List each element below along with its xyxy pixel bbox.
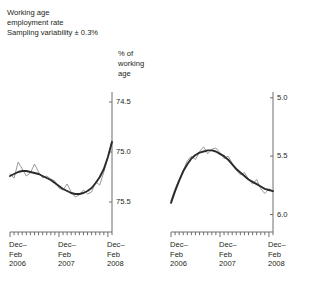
y-tick-label: 6.0 (277, 211, 288, 219)
y-tick-label: 75.5 (116, 198, 131, 206)
axis-group-employment (10, 92, 112, 237)
plot-area-unemployment: 6.05.55.0 Dec– Feb 2006Dec– Feb 2007Dec–… (169, 88, 275, 236)
y-tick-label: 5.5 (277, 152, 288, 160)
x-tick-label: Dec– Feb 2007 (219, 240, 237, 269)
plot-svg-unemployment (169, 88, 275, 236)
chart-figure: Working age employment rate Sampling var… (0, 0, 329, 302)
plot-area-employment: 75.575.074.5 Dec– Feb 2006Dec– Feb 2007D… (8, 88, 114, 236)
x-tick-label: Dec– Feb 2007 (58, 240, 76, 269)
x-tick-label: Dec– Feb 2006 (170, 240, 188, 269)
panel-unemployment-rate: Unemployment rate Sampling variability ±… (161, 0, 329, 302)
panel-title-employment: Working age employment rate Sampling var… (7, 8, 98, 39)
y-tick-label: 75.0 (116, 148, 131, 156)
y-tick-label: 5.0 (277, 94, 288, 102)
x-tick-label: Dec– Feb 2006 (9, 240, 27, 269)
x-tick-label: Dec– Feb 2008 (107, 240, 125, 269)
panel-working-age-employment-rate: Working age employment rate Sampling var… (0, 0, 165, 302)
y-axis-caption-employment: % of working age (118, 49, 144, 80)
legend: Seasonally adj. series Trend (0, 281, 329, 302)
y-tick-label: 74.5 (116, 98, 131, 106)
x-tick-label: Dec– Feb 2008 (268, 240, 286, 269)
plot-svg-employment (8, 88, 114, 236)
